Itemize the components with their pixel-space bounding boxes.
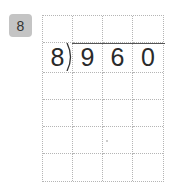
grid-cell[interactable] — [133, 16, 163, 43]
grid-cell[interactable] — [133, 73, 163, 100]
grid-cell[interactable] — [73, 73, 103, 100]
dividend-digit-cell: 0 — [133, 43, 163, 73]
long-division-grid: 8 9 6 0 — [42, 15, 164, 182]
grid-cell[interactable] — [103, 16, 133, 43]
grid-cell[interactable] — [43, 73, 73, 100]
division-bar — [72, 43, 165, 44]
grid-cell[interactable] — [43, 154, 73, 181]
grid-cell[interactable] — [103, 154, 133, 181]
grid-cell[interactable] — [103, 73, 133, 100]
dividend-digit-cell: 9 — [73, 43, 103, 73]
dividend-digit-cell: 6 — [103, 43, 133, 73]
grid-cell[interactable] — [43, 16, 73, 43]
grid-cell[interactable] — [133, 100, 163, 127]
grid-cell[interactable] — [73, 16, 103, 43]
problem-number-badge: 8 — [9, 14, 32, 37]
grid-cell[interactable] — [43, 127, 73, 154]
grid-cell[interactable] — [133, 154, 163, 181]
grid-cell[interactable] — [73, 127, 103, 154]
grid-cell[interactable] — [43, 100, 73, 127]
stray-mark — [106, 140, 108, 142]
grid-cell[interactable] — [73, 154, 103, 181]
grid-cell[interactable] — [103, 100, 133, 127]
grid-cell[interactable] — [73, 100, 103, 127]
grid-cell[interactable] — [133, 127, 163, 154]
division-bracket-icon — [66, 43, 74, 71]
